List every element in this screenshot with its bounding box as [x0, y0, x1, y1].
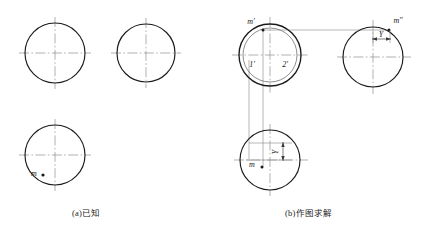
point-m-marker	[261, 166, 264, 169]
figure-container: m m′ 1′ 2′	[0, 0, 421, 236]
dimension-y-topview: Y	[271, 142, 285, 161]
dimension-y-sideview: Y	[372, 30, 391, 43]
dimension-label-y: Y	[379, 30, 385, 39]
panel-b-projection-lines	[246, 30, 390, 167]
point-label-m-prime: m′	[247, 17, 255, 26]
point-label-m-double-prime: m″	[393, 16, 403, 25]
panel-b-top-view: m Y	[234, 124, 308, 196]
dimension-label-y: Y	[271, 148, 280, 154]
technical-drawing-canvas: m m′ 1′ 2′	[0, 0, 421, 236]
point-m-marker	[41, 173, 44, 176]
panel-a: m	[19, 17, 181, 191]
panel-a-side-view	[111, 18, 181, 88]
point-label-m: m	[31, 169, 37, 178]
panel-b: m′ 1′ 2′ m″ Y	[232, 16, 411, 196]
panel-a-caption: (a)已知	[72, 206, 100, 218]
point-label-1-prime: 1′	[249, 60, 255, 69]
point-m-prime-marker	[262, 29, 265, 32]
panel-a-top-view: m	[19, 119, 91, 191]
panel-a-front-view	[19, 17, 91, 89]
panel-b-caption: (b)作图求解	[285, 206, 332, 218]
panel-b-front-view: m′ 1′ 2′	[232, 17, 308, 93]
point-label-2-prime: 2′	[282, 60, 288, 69]
panel-b-side-view: m″ Y	[337, 16, 411, 94]
point-label-m: m	[249, 160, 255, 169]
